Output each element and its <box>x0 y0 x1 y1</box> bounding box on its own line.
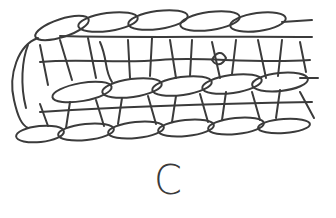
figure-label: C <box>0 160 336 200</box>
